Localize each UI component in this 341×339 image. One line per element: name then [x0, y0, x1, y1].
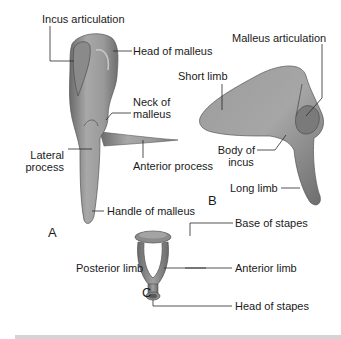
- label-posterior-limb: Posterior limb: [76, 262, 143, 274]
- label-long-limb: Long limb: [230, 182, 278, 194]
- label-body-of-incus-1: Body of: [210, 144, 255, 156]
- label-anterior-process: Anterior process: [133, 160, 213, 172]
- ossicles-figure: Incus articulation Head of malleus Neck …: [0, 0, 341, 339]
- label-head-of-malleus: Head of malleus: [133, 45, 213, 57]
- leader-base-of-stapes: [190, 223, 233, 236]
- label-neck-of-malleus-2: malleus: [133, 108, 171, 120]
- panel-letter-a: A: [48, 225, 57, 240]
- label-lateral-process-2: process: [24, 161, 64, 173]
- label-base-of-stapes: Base of stapes: [235, 217, 308, 229]
- label-incus-articulation: Incus articulation: [42, 13, 125, 25]
- label-short-limb: Short limb: [178, 70, 228, 82]
- panel-letter-c: C: [142, 285, 151, 300]
- label-lateral-process-1: Lateral: [28, 149, 64, 161]
- label-handle-of-malleus: Handle of malleus: [107, 205, 195, 217]
- label-anterior-limb: Anterior limb: [235, 262, 297, 274]
- label-body-of-incus-2: incus: [226, 156, 256, 168]
- label-head-of-stapes: Head of stapes: [235, 300, 309, 312]
- label-malleus-articulation: Malleus articulation: [232, 32, 326, 44]
- leader-neck-of-malleus: [106, 113, 131, 120]
- label-neck-of-malleus-1: Neck of: [133, 96, 170, 108]
- malleus-bone: [70, 34, 179, 224]
- panel-letter-b: B: [208, 193, 217, 208]
- leader-head-of-stapes: [153, 300, 232, 306]
- bottom-divider-bar: [15, 335, 341, 339]
